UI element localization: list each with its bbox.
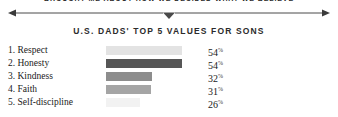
bar	[106, 98, 140, 107]
bar-track	[106, 85, 196, 94]
bar-chart: 1. Respect 54% 2. Honesty 54% 3. Kindnes…	[0, 44, 338, 109]
percent-symbol: %	[218, 86, 223, 92]
bar	[106, 72, 152, 81]
table-row: 4. Faith 31%	[0, 83, 338, 96]
bar	[106, 85, 151, 94]
row-value-number: 26	[208, 99, 218, 110]
percent-symbol: %	[218, 99, 223, 105]
table-row: 5. Self-discipline 26%	[0, 96, 338, 109]
row-value: 26%	[208, 96, 223, 111]
bar-track	[106, 72, 196, 81]
bar-track	[106, 98, 196, 107]
chart-title: U.S. DADS' TOP 5 VALUES FOR SONS	[0, 26, 338, 36]
percent-symbol: %	[218, 73, 223, 79]
clipped-overline-text: BROUGHT ME ABOUT HOW WE DECIDED WHAT WE …	[0, 0, 338, 4]
bar-track	[106, 46, 196, 55]
row-label: 5. Self-discipline	[8, 96, 73, 109]
bar	[106, 59, 182, 68]
bar	[106, 46, 182, 55]
row-label: 4. Faith	[8, 83, 37, 96]
row-label: 1. Respect	[8, 44, 48, 57]
percent-symbol: %	[218, 47, 223, 53]
percent-symbol: %	[218, 60, 223, 66]
table-row: 1. Respect 54%	[0, 44, 338, 57]
bar-track	[106, 59, 196, 68]
table-row: 3. Kindness 32%	[0, 70, 338, 83]
row-label: 3. Kindness	[8, 70, 53, 83]
row-label: 2. Honesty	[8, 57, 49, 70]
decorative-divider-rule	[8, 9, 330, 21]
table-row: 2. Honesty 54%	[0, 57, 338, 70]
